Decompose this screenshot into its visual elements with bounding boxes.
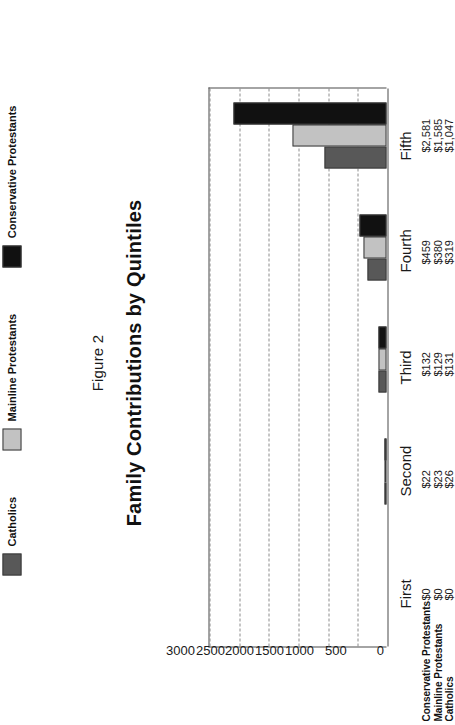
legend-swatch-icon: [2, 428, 21, 450]
bar-second-mainline-protestants: [384, 460, 386, 482]
value-fourth-mainline-protestants: $380: [432, 240, 444, 264]
bar-third-conservative-protestants: [378, 326, 386, 348]
value-labels-first: $0$0$0: [420, 588, 455, 600]
row-name-catholics: Catholics: [443, 600, 455, 721]
legend-swatch-icon: [2, 245, 21, 267]
value-fourth-conservative-protestants: $459: [420, 240, 432, 264]
value-fifth-catholics: $1,047: [443, 118, 455, 152]
gridline-0: [387, 88, 388, 646]
value-first-mainline-protestants: $0: [432, 588, 444, 600]
bar-third-catholics: [378, 370, 386, 392]
bar-fourth-conservative-protestants: [359, 214, 386, 236]
category-label-second: Second: [396, 445, 413, 496]
axis-tick-label: 3000: [166, 643, 195, 658]
bar-group-first: [209, 534, 386, 646]
legend-swatch-icon: [2, 553, 21, 575]
value-labels-fourth: $459$380$319: [420, 240, 455, 264]
legend-item-mainline-protestants: Mainline Protestants: [2, 313, 21, 450]
row-name-conservative-protestants: Conservative Protestants: [420, 600, 432, 721]
category-label-fourth: Fourth: [396, 229, 413, 272]
legend-item-conservative-protestants: Conservative Protestants: [2, 105, 21, 267]
value-first-conservative-protestants: $0: [420, 588, 432, 600]
bar-group-third: [209, 310, 386, 422]
value-second-mainline-protestants: $23: [432, 470, 444, 488]
value-second-conservative-protestants: $22: [420, 470, 432, 488]
bar-fourth-catholics: [367, 258, 386, 280]
bar-fourth-mainline-protestants: [363, 236, 386, 258]
category-label-fifth: Fifth: [396, 131, 413, 160]
legend-item-catholics: Catholics: [2, 496, 21, 575]
value-labels-second: $22$23$26: [420, 470, 455, 488]
bar-group-second: [209, 422, 386, 534]
bar-group-fifth: [209, 86, 386, 198]
value-third-mainline-protestants: $129: [432, 352, 444, 376]
bar-fifth-mainline-protestants: [292, 124, 386, 146]
legend-label: Conservative Protestants: [5, 105, 17, 238]
value-fifth-conservative-protestants: $2,581: [420, 118, 432, 152]
category-label-first: First: [396, 579, 413, 608]
bar-second-conservative-protestants: [384, 438, 386, 460]
value-labels-third: $132$129$131: [420, 352, 455, 376]
value-fifth-mainline-protestants: $1,585: [432, 118, 444, 152]
chart-legend: CatholicsMainline ProtestantsConservativ…: [0, 105, 22, 575]
category-label-third: Third: [396, 350, 413, 384]
bar-fifth-catholics: [324, 146, 386, 168]
row-name-mainline-protestants: Mainline Protestants: [432, 600, 444, 721]
value-second-catholics: $26: [443, 470, 455, 488]
bar-third-mainline-protestants: [378, 348, 386, 370]
value-third-conservative-protestants: $132: [420, 352, 432, 376]
chart-title: Family Contributions by Quintiles: [122, 0, 145, 725]
value-fourth-catholics: $319: [443, 240, 455, 264]
value-table-row-names: Conservative ProtestantsMainline Protest…: [420, 600, 455, 721]
legend-label: Catholics: [5, 496, 17, 546]
figure-number: Figure 2: [88, 0, 105, 725]
bar-fifth-conservative-protestants: [233, 102, 386, 124]
value-third-catholics: $131: [443, 352, 455, 376]
value-labels-fifth: $2,581$1,585$1,047: [420, 118, 455, 152]
bar-group-fourth: [209, 198, 386, 310]
legend-label: Mainline Protestants: [5, 313, 17, 421]
value-first-catholics: $0: [443, 588, 455, 600]
bar-second-catholics: [384, 482, 386, 504]
plot-area: 050010001500200025003000: [208, 87, 386, 647]
